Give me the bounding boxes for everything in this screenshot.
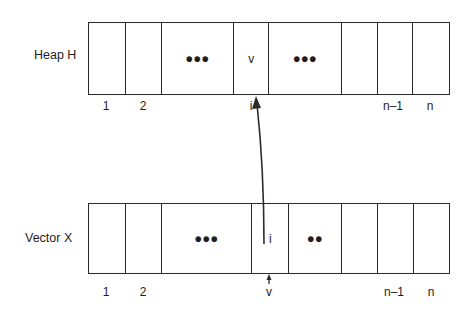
cell-content: v bbox=[248, 52, 254, 66]
heap-cell bbox=[88, 22, 127, 95]
vector-cell bbox=[341, 203, 379, 274]
heap-index-label: n bbox=[412, 99, 448, 113]
cell-content: ••• bbox=[293, 54, 317, 64]
vector-cell bbox=[88, 203, 127, 274]
vector-cell: •• bbox=[288, 203, 343, 274]
cell-content: •• bbox=[307, 234, 323, 244]
cell-content: ••• bbox=[186, 54, 210, 64]
vector-cell bbox=[125, 203, 163, 274]
value-pointer-arrow bbox=[267, 274, 272, 284]
heap-cell bbox=[125, 22, 163, 95]
arrowhead-icon bbox=[267, 274, 272, 280]
heap-cell bbox=[341, 22, 379, 95]
cell-content: i bbox=[269, 232, 272, 246]
vector-label: Vector X bbox=[25, 231, 72, 245]
vector-cell bbox=[377, 203, 415, 274]
heap-cell: ••• bbox=[268, 22, 343, 95]
heap-index-label: n–1 bbox=[375, 99, 411, 113]
heap-cell: v bbox=[233, 22, 270, 95]
vector-cell: ••• bbox=[161, 203, 253, 274]
vector-index-label: n bbox=[413, 285, 449, 299]
heap-cell bbox=[412, 22, 450, 95]
vector-cell: i bbox=[251, 203, 290, 274]
vector-index-label: n–1 bbox=[376, 285, 412, 299]
heap-cell bbox=[377, 22, 414, 95]
vector-index-label: 2 bbox=[125, 285, 161, 299]
vector-index-label: 1 bbox=[88, 285, 124, 299]
vector-index-label: v bbox=[251, 285, 287, 299]
heap-index-label: i bbox=[233, 99, 269, 113]
heap-index-label: 2 bbox=[125, 99, 161, 113]
cell-content: ••• bbox=[195, 234, 219, 244]
heap-cell: ••• bbox=[161, 22, 235, 95]
heap-label: Heap H bbox=[34, 48, 76, 62]
vector-cell bbox=[413, 203, 450, 274]
heap-index-label: 1 bbox=[88, 99, 124, 113]
